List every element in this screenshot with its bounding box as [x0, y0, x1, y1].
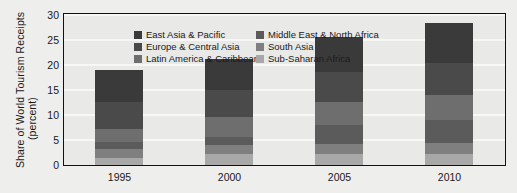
bar-segment: [425, 63, 473, 95]
bar-segment: [205, 154, 253, 165]
bar-segment: [315, 154, 363, 165]
y-tick-label: 25: [37, 35, 59, 45]
y-tick-label: 10: [37, 110, 59, 120]
legend-label: South Asia: [268, 41, 313, 53]
bar-segment: [205, 117, 253, 138]
x-tick-label: 2000: [190, 171, 270, 183]
bar-segment: [425, 143, 473, 154]
x-tick-label: 2010: [410, 171, 490, 183]
y-tick-label: 20: [37, 60, 59, 70]
bar-segment: [315, 144, 363, 154]
legend-label: Europe & Central Asia: [146, 41, 239, 53]
bar-segment: [95, 142, 143, 150]
bar-segment: [95, 149, 143, 158]
y-tick-label: 5: [37, 135, 59, 145]
legend-swatch-icon: [256, 31, 264, 39]
bar-segment: [315, 72, 363, 102]
bar-segment: [95, 70, 143, 102]
legend-swatch-icon: [134, 43, 142, 51]
chart-legend: East Asia & PacificMiddle East & North A…: [134, 29, 444, 65]
bar-segment: [95, 129, 143, 142]
legend-label: Latin America & Caribbean: [146, 53, 259, 65]
bar-segment: [425, 120, 473, 143]
y-tick-label: 15: [37, 85, 59, 95]
legend-swatch-icon: [256, 43, 264, 51]
bar-segment: [425, 154, 473, 165]
gridline: [64, 14, 505, 16]
y-tick-label: 30: [37, 10, 59, 20]
bar-segment: [205, 145, 253, 154]
y-axis-ticks: 051015202530: [33, 0, 59, 193]
legend-item: Europe & Central Asia: [134, 41, 256, 53]
chart-figure: Share of World Tourism Receipts (percent…: [0, 0, 517, 193]
plot-area: East Asia & PacificMiddle East & North A…: [63, 13, 506, 166]
x-tick-label: 1995: [80, 171, 160, 183]
stacked-bar: [205, 59, 253, 166]
bar-segment: [315, 102, 363, 125]
legend-item: East Asia & Pacific: [134, 29, 256, 41]
legend-label: East Asia & Pacific: [146, 29, 225, 41]
bar-segment: [425, 95, 473, 121]
legend-label: Middle East & North Africa: [268, 29, 379, 41]
bar-segment: [315, 125, 363, 144]
legend-item: Sub-Saharan Africa: [256, 53, 416, 65]
bar-segment: [205, 137, 253, 145]
bar-segment: [95, 158, 143, 166]
stacked-bar: [95, 70, 143, 165]
legend-label: Sub-Saharan Africa: [268, 53, 350, 65]
y-tick-label: 0: [37, 160, 59, 170]
bar-segment: [95, 102, 143, 130]
x-tick-label: 2005: [300, 171, 380, 183]
bar-segment: [205, 90, 253, 117]
legend-item: South Asia: [256, 41, 416, 53]
y-axis-label-line-1: Share of World Tourism Receipts: [14, 12, 26, 168]
legend-swatch-icon: [256, 55, 264, 63]
legend-swatch-icon: [134, 55, 142, 63]
legend-item: Latin America & Caribbean: [134, 53, 256, 65]
legend-swatch-icon: [134, 31, 142, 39]
legend-item: Middle East & North Africa: [256, 29, 416, 41]
